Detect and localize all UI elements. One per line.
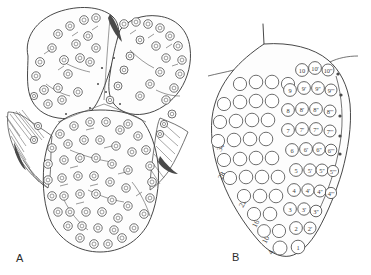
pore [152,42,160,50]
pore [160,120,167,127]
numbered-cell: 9' [298,82,311,95]
svg-text:3: 3 [288,206,291,213]
svg-text:2': 2' [308,225,312,232]
pore [174,42,183,51]
pore [84,32,93,41]
pore [106,96,114,104]
pore [54,208,62,216]
pore [120,20,129,29]
pore [30,92,37,99]
numbered-cell: 7'' [310,123,323,136]
panel-a-notch-right [158,156,178,174]
svg-text:8': 8' [300,106,304,113]
pore [156,24,164,32]
numbered-cell: 6'' [313,143,325,155]
pore [104,240,112,248]
figure-canvas: 34 28 22 16 10 4 10 10' 10'' [0,0,371,275]
pore [64,140,72,148]
pore [116,126,124,134]
figure-root: 34 28 22 16 10 4 10 10' 10'' [0,0,371,275]
svg-text:9''': 9''' [328,87,335,94]
svg-text:3': 3' [302,206,306,213]
svg-text:6'': 6'' [316,146,322,153]
pore [44,176,52,184]
svg-text:7'': 7'' [313,126,319,133]
pore [148,178,157,187]
panel-label-a: A [16,252,24,264]
numbered-cell: 10'' [322,64,334,76]
pore [54,84,63,93]
pore [176,70,185,79]
panel-a-left-hatching [6,110,48,188]
pore [82,208,90,216]
pore [90,240,99,249]
pore [112,142,120,150]
pore [114,214,122,222]
pore [44,160,53,169]
pore [32,72,40,80]
pore [60,56,69,65]
pore [132,18,140,26]
pore [130,224,138,232]
numbered-cell: 8 [282,104,295,117]
pore [64,222,73,231]
numbered-cell: 4'' [314,185,326,197]
pore [76,234,84,242]
panel-label-b: B [232,251,240,263]
pore [178,56,186,64]
pore [134,132,142,140]
pore [122,184,130,192]
numbered-cell: 6 [286,144,299,157]
pore [56,130,64,138]
svg-text:3'': 3'' [313,208,319,215]
pore [64,70,72,78]
svg-text:5': 5' [308,167,312,174]
pore [90,172,99,181]
pore [74,172,82,180]
pore [110,226,118,234]
numbered-cell: 6''' [325,144,337,156]
numbered-cell: 4 [288,184,301,197]
numbered-cell: 3'' [310,205,322,217]
panel-b-apex-stalk [263,24,264,44]
pore [146,162,154,170]
panel-a-upper-right-lobe [109,16,191,115]
pore [92,14,100,22]
svg-text:8'': 8'' [313,106,319,113]
numbered-cell: 8''' [324,105,336,117]
pore [34,122,41,129]
numbered-cell: 8' [296,103,309,116]
pore [118,234,127,243]
pore [124,202,132,210]
numbered-cell: 1 [291,240,305,254]
panel-a-drawing [6,7,191,252]
pore [142,146,151,155]
pore [126,52,134,60]
numbered-cell: 8'' [310,103,323,116]
pore [74,88,83,97]
numbered-cell: 5 [290,164,303,177]
numbered-cell: 9''' [325,84,337,96]
pore [162,96,170,104]
pore [156,68,165,77]
svg-text:7''': 7''' [327,128,334,135]
pore [140,210,149,219]
svg-text:5''': 5''' [330,168,337,175]
pore [66,208,74,216]
svg-text:5'': 5'' [319,167,325,174]
pore [108,196,116,204]
pore [44,100,52,108]
pore [36,58,45,67]
svg-text:8''': 8''' [327,108,334,115]
svg-text:4': 4' [306,187,310,194]
numbered-cell: 2 [290,222,303,235]
pore [124,120,132,128]
pore [80,136,89,145]
svg-text:9'': 9'' [315,85,321,92]
pore [48,192,57,201]
numbered-cell: 9'' [312,82,325,95]
pore [54,30,63,39]
numbered-cell: 6' [300,143,313,156]
numbered-cell: 5' [304,164,316,176]
pore [162,54,170,62]
